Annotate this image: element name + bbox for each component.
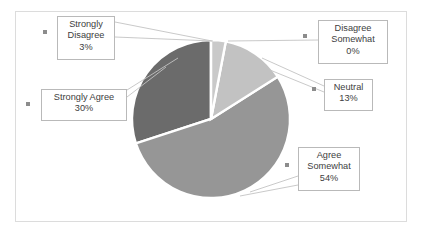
- label-agree-somewhat-line1: Agree: [302, 150, 356, 161]
- legend-marker-strongly-disagree: [43, 30, 47, 34]
- label-strongly-agree-value: 30%: [45, 103, 123, 114]
- label-disagree-somewhat-line1: Disagree: [322, 23, 384, 34]
- label-agree-somewhat-value: 54%: [302, 173, 356, 184]
- data-label-strongly-agree[interactable]: Strongly Agree 30%: [41, 89, 127, 121]
- label-neutral-value: 13%: [328, 93, 369, 104]
- label-strongly-agree-line1: Strongly Agree: [45, 92, 123, 103]
- data-label-strongly-disagree[interactable]: Strongly Disagree 3%: [57, 16, 115, 60]
- label-strongly-disagree-value: 3%: [61, 42, 111, 53]
- legend-marker-strongly-agree: [26, 102, 30, 106]
- pie-chart-screenshot: Strongly Disagree 3% Disagree Somewhat 0…: [0, 0, 423, 239]
- label-neutral-line1: Neutral: [328, 82, 369, 93]
- data-label-neutral[interactable]: Neutral 13%: [324, 79, 373, 111]
- label-agree-somewhat-line2: Somewhat: [302, 161, 356, 172]
- data-label-disagree-somewhat[interactable]: Disagree Somewhat 0%: [318, 20, 388, 64]
- legend-marker-disagree-somewhat: [303, 34, 307, 38]
- label-strongly-disagree-line2: Disagree: [61, 30, 111, 41]
- label-disagree-somewhat-line2: Somewhat: [322, 34, 384, 45]
- label-strongly-disagree-line1: Strongly: [61, 19, 111, 30]
- legend-marker-agree-somewhat: [285, 163, 289, 167]
- label-disagree-somewhat-value: 0%: [322, 46, 384, 57]
- data-label-agree-somewhat[interactable]: Agree Somewhat 54%: [298, 147, 360, 191]
- legend-marker-neutral: [312, 87, 316, 91]
